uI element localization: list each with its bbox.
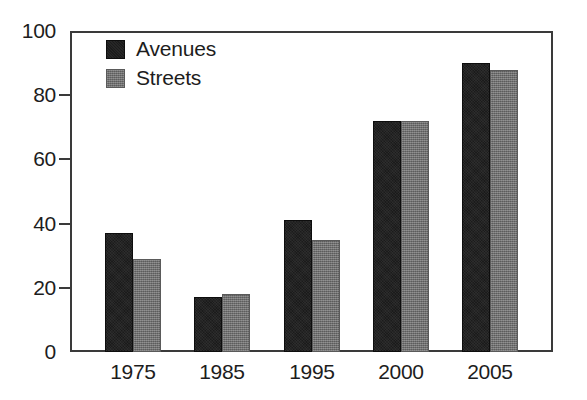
legend-swatch-avenues-icon	[106, 40, 125, 59]
y-axis-tick-label: 40	[33, 212, 56, 236]
y-axis: 100806040200	[0, 0, 70, 400]
x-axis-tick-label: 1985	[199, 360, 245, 384]
chart-legend: AvenuesStreets	[106, 36, 216, 94]
legend-swatch-streets-icon	[106, 69, 125, 88]
y-axis-tick-mark	[59, 223, 70, 225]
y-axis-tick-label: 0	[45, 340, 56, 364]
y-axis-tick-mark	[59, 158, 70, 160]
x-axis-tick-label: 2000	[378, 360, 424, 384]
x-axis-tick-label: 1995	[289, 360, 335, 384]
bar-chart: 100806040200 19751985199520002005 Avenue…	[0, 0, 587, 400]
y-axis-tick-label: 60	[33, 147, 56, 171]
y-axis-tick-mark	[59, 287, 70, 289]
legend-item-streets: Streets	[106, 65, 216, 91]
x-axis-tick-label: 2005	[467, 360, 513, 384]
legend-label: Streets	[136, 66, 201, 90]
y-axis-tick-label: 20	[33, 276, 56, 300]
y-axis-tick-label: 100	[22, 19, 56, 43]
x-axis-tick-label: 1975	[110, 360, 156, 384]
y-axis-tick-label: 80	[33, 83, 56, 107]
legend-label: Avenues	[136, 37, 216, 61]
y-axis-tick-mark	[59, 94, 70, 96]
legend-item-avenues: Avenues	[106, 36, 216, 62]
